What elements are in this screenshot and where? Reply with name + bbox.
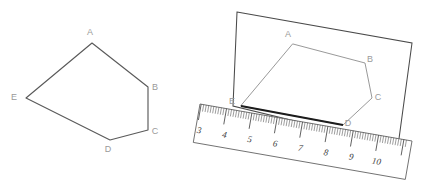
- vertex-label-C-right: C: [375, 92, 382, 102]
- figure-canvas: A B C D E 345678910 A B C D E: [0, 0, 426, 190]
- vertex-label-D-right: D: [345, 118, 352, 128]
- vertex-label-B-left: B: [152, 82, 158, 92]
- vertex-label-A-right: A: [285, 29, 291, 39]
- vertex-label-A-left: A: [87, 27, 93, 37]
- vertex-label-C-left: C: [152, 126, 159, 136]
- vertex-label-E-left: E: [11, 92, 17, 102]
- vertex-label-B-right: B: [367, 54, 373, 64]
- figure-root: A B C D E 345678910 A B C D E: [0, 0, 426, 190]
- vertex-label-E-right: E: [229, 96, 235, 106]
- vertex-label-D-left: D: [105, 144, 112, 154]
